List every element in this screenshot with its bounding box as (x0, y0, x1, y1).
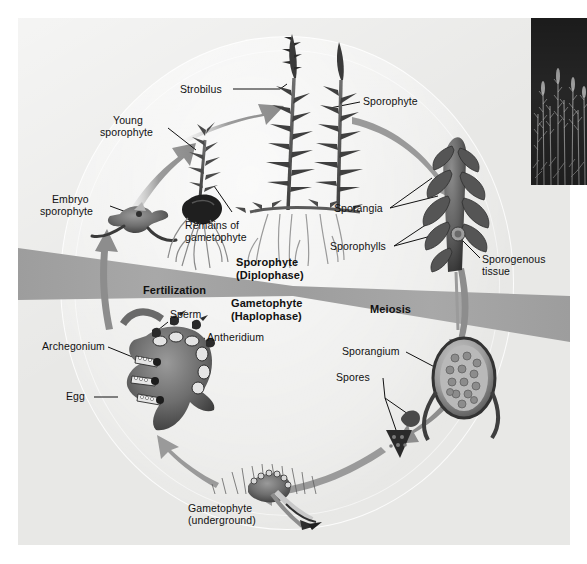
club-moss-habitat-photo (531, 18, 587, 185)
label-embryo-sporophyte-l2: sporophyte (40, 205, 93, 218)
label-sperm: Sperm (170, 308, 201, 321)
band-gametophyte-phase: Gametophyte (231, 297, 302, 310)
band-sporophyte-subphase: (Diplophase) (236, 269, 304, 282)
label-gametophyte-underground-l2: (underground) (188, 514, 256, 527)
mature-gametophyte-art (127, 310, 215, 430)
label-sporangium: Sporangium (342, 345, 400, 358)
leader-sporophyte (330, 102, 360, 108)
band-gametophyte-subphase: (Haplophase) (231, 310, 302, 323)
leader-spores-a (385, 398, 408, 414)
sporangium-closeup-art (424, 338, 498, 440)
label-sporophyte: Sporophyte (363, 95, 418, 108)
label-young-sporophyte-l2: sporophyte (100, 126, 153, 139)
band-meiosis: Meiosis (370, 303, 411, 316)
band-fertilization: Fertilization (143, 284, 206, 297)
label-embryo-sporophyte-l1: Embryo (52, 193, 89, 206)
photo-content (531, 18, 587, 185)
diagram-canvas: Strobilus Sporophyte Young sporophyte Em… (0, 0, 587, 564)
young-sporophyte-art (168, 122, 228, 270)
label-sporophylls: Sporophylls (330, 240, 386, 253)
leader-spores-b (385, 398, 396, 430)
label-sporangia: Sporangia (334, 202, 383, 215)
label-gametophyte-underground-l1: Gametophyte (188, 502, 252, 515)
label-young-sporophyte-l1: Young (113, 114, 143, 127)
label-egg: Egg (66, 390, 85, 403)
label-strobilus: Strobilus (180, 83, 222, 96)
diagram-artwork (0, 0, 587, 564)
label-remains-l2: gametophyte (185, 231, 247, 244)
leader-spores-stem (383, 378, 385, 398)
band-sporophyte-phase: Sporophyte (236, 256, 298, 269)
embryo-sporophyte-art (92, 202, 176, 241)
label-remains-l1: Remains of (185, 219, 239, 232)
mature-sporophyte-art (235, 34, 363, 268)
label-archegonium: Archegonium (42, 340, 105, 353)
label-antheridium: Antheridium (207, 331, 264, 344)
label-spores: Spores (336, 371, 370, 384)
spores-art (386, 411, 420, 458)
label-sporogenous-l1: Sporogenous (482, 253, 546, 266)
leader-sporangia-a (390, 178, 432, 208)
label-sporogenous-l2: tissue (482, 265, 510, 278)
